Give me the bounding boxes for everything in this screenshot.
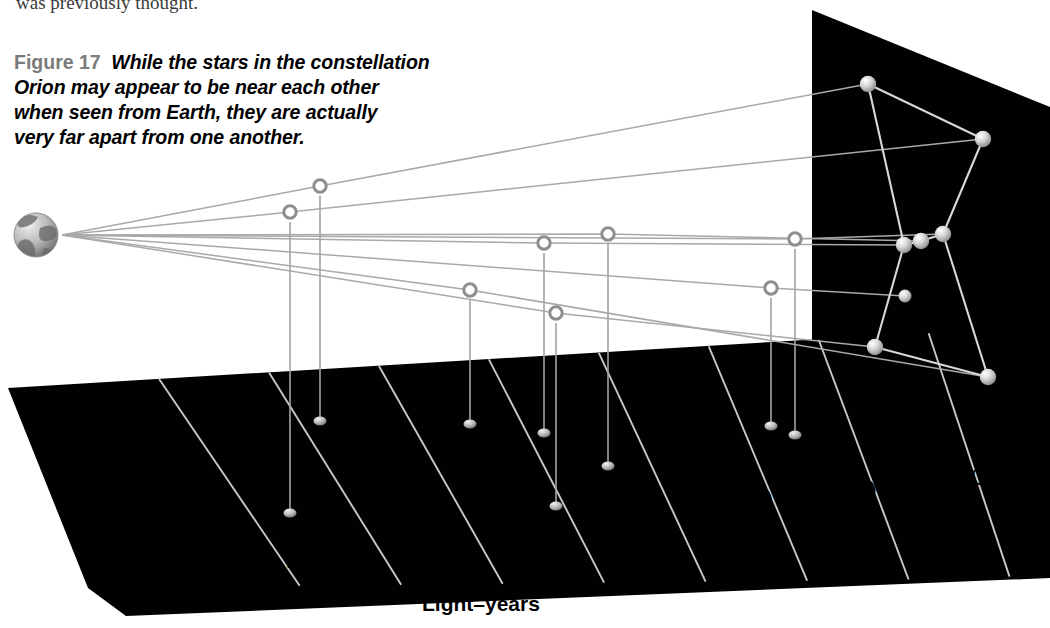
true-position-ring-betelgeuse [314,180,326,192]
true-position-ring-mintaka [538,237,550,249]
sky-star-rigel [980,369,996,385]
sky-star-saiph [867,339,883,355]
floor-marker-mintaka [538,428,551,437]
true-position-ring-rigel [464,284,476,296]
true-position-ring-saiph [550,307,562,319]
floor-marker-saiph [550,501,563,510]
floor-marker-betelgeuse [314,416,327,425]
sky-backdrop-panel [812,10,1050,352]
true-position-ring-alnilam [602,228,614,240]
floor-marker-alnilam [602,461,615,470]
floor-marker-nair-al-saif [765,421,778,430]
sky-star-alnitak [935,226,951,242]
sky-star-betelgeuse [860,76,876,92]
sight-line-mintaka [62,235,904,245]
floor-marker-bellatrix [284,508,297,517]
axis-title-light-years: Light–years [422,592,540,616]
sight-line-betelgeuse [62,84,868,235]
sky-star-bellatrix [975,131,991,147]
sky-star-nair-al-saif [899,290,912,303]
true-position-rings [284,180,801,319]
light-years-floor-plane [8,326,1050,616]
earth-globe [14,213,58,261]
orion-distance-figure: was previously thought. [0,0,1050,628]
true-position-ring-nair-al-saif [765,282,777,294]
floor-marker-rigel [464,419,477,428]
true-position-ring-alnitak [789,233,801,245]
true-position-ring-bellatrix [284,206,296,218]
sky-star-mintaka [896,237,912,253]
floor-marker-alnitak [789,430,802,439]
sky-star-alnilam [913,233,929,249]
